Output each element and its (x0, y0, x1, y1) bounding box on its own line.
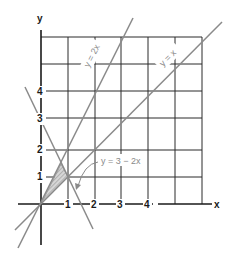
line-y-equals-2x (18, 18, 133, 248)
label-y-equals-3-minus-2x: y = 3 − 2x (101, 156, 141, 166)
label-y-equals-2x: y = 2x (82, 42, 102, 69)
x-axis-label: x (214, 199, 220, 210)
svg-text:4: 4 (144, 199, 150, 210)
arrowhead-icon (75, 183, 81, 190)
svg-text:2: 2 (37, 144, 43, 155)
coordinate-diagram: y x 4 3 2 1 1 2 3 4 y = 2x y = x y = 3 −… (0, 0, 236, 258)
y-axis-label: y (37, 13, 43, 24)
svg-text:1: 1 (37, 171, 43, 182)
svg-text:3: 3 (37, 113, 43, 124)
line-y-equals-3-minus-2x (25, 87, 93, 229)
svg-text:3: 3 (117, 199, 123, 210)
svg-text:4: 4 (37, 86, 43, 97)
svg-text:1: 1 (65, 199, 71, 210)
svg-text:2: 2 (91, 199, 97, 210)
